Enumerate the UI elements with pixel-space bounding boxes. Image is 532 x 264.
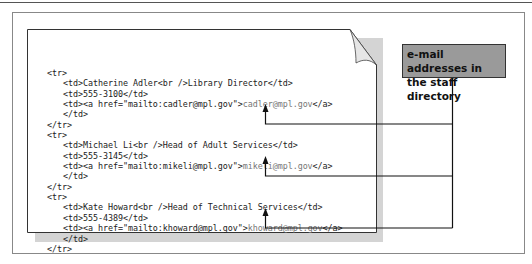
arrowhead-icon: [263, 104, 269, 112]
callout-line-1: e-mail addresses in: [407, 47, 501, 75]
arrowhead-icon: [263, 156, 269, 164]
callout-label-box: e-mail addresses in the staff directory: [402, 44, 506, 78]
callout-line-2: the staff directory: [407, 75, 501, 103]
arrowhead-icon: [263, 208, 269, 216]
callout-connector-lines: [0, 0, 532, 264]
